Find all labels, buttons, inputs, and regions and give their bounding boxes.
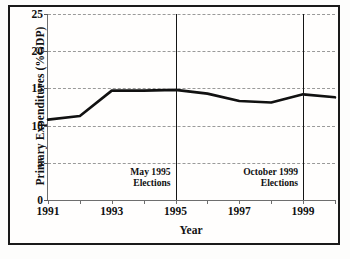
event-label-may-1995-elections: May 1995Elections	[130, 166, 175, 189]
y-gridline	[48, 163, 335, 164]
event-line-may-1995-elections	[176, 14, 177, 200]
x-tick-mark	[48, 200, 49, 204]
x-tick-mark	[80, 200, 81, 204]
x-tick-label: 1997	[228, 205, 251, 217]
x-tick-label: 1995	[164, 205, 187, 217]
figure-container: Primary Expenditures (%GDP) 051015202519…	[0, 0, 350, 259]
y-tick-label: 25	[32, 8, 44, 20]
y-tick-mark	[44, 14, 48, 15]
x-tick-mark	[112, 200, 113, 204]
y-gridline	[48, 51, 335, 52]
y-axis-title: Primary Expenditures (%GDP)	[34, 6, 46, 206]
event-label-line1: May 1995	[130, 166, 170, 178]
series-primary-expenditures	[48, 90, 335, 120]
y-axis-title-container: Primary Expenditures (%GDP)	[10, 0, 34, 210]
x-tick-label: 1993	[100, 205, 123, 217]
x-tick-mark	[176, 200, 177, 204]
x-tick-mark	[239, 200, 240, 204]
plot-area: 051015202519911993199519971999May 1995El…	[47, 14, 335, 201]
y-tick-mark	[44, 51, 48, 52]
y-tick-mark	[44, 88, 48, 89]
y-tick-label: 20	[32, 45, 44, 57]
y-tick-mark	[44, 163, 48, 164]
y-tick-label: 5	[37, 157, 43, 169]
y-gridline	[48, 88, 335, 89]
x-tick-mark	[271, 200, 272, 204]
event-label-line1: October 1999	[243, 166, 298, 178]
y-tick-mark	[44, 126, 48, 127]
x-tick-label: 1991	[37, 205, 60, 217]
x-axis-title: Year	[47, 224, 335, 236]
x-tick-label: 1999	[292, 205, 315, 217]
event-label-line2: Elections	[130, 177, 170, 189]
y-gridline	[48, 14, 335, 15]
x-tick-mark	[335, 200, 336, 204]
x-tick-mark	[144, 200, 145, 204]
event-label-october-1999-elections: October 1999Elections	[243, 166, 303, 189]
y-gridline	[48, 126, 335, 127]
y-tick-label: 10	[32, 120, 44, 132]
x-tick-mark	[303, 200, 304, 204]
event-label-line2: Elections	[243, 177, 298, 189]
x-tick-mark	[207, 200, 208, 204]
y-tick-label: 15	[32, 82, 44, 94]
event-line-october-1999-elections	[303, 14, 304, 200]
